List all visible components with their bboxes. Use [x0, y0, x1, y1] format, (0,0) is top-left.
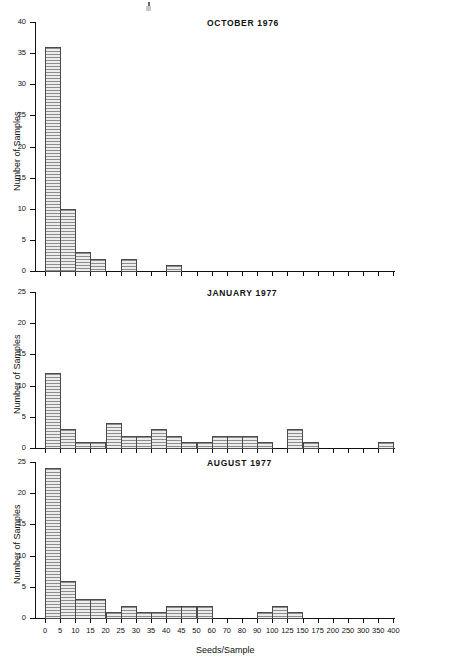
histogram-bar — [90, 442, 106, 449]
histogram-bar — [197, 606, 213, 619]
y-tick-label: 30 — [3, 79, 26, 88]
x-tick — [363, 272, 364, 276]
histogram-bar — [90, 599, 106, 619]
y-tick — [30, 22, 35, 23]
histogram-bar — [272, 606, 288, 619]
x-tick — [197, 449, 198, 453]
x-tick — [45, 272, 46, 276]
histogram-bar — [121, 606, 137, 619]
histogram-bar — [45, 373, 61, 449]
x-tick — [136, 619, 137, 623]
histogram-bar — [212, 436, 228, 449]
y-tick-label: 15 — [3, 519, 26, 528]
x-tick — [121, 619, 122, 623]
x-tick — [60, 272, 61, 276]
x-tick — [393, 449, 394, 453]
panel-title: OCTOBER 1976 — [207, 18, 279, 28]
x-axis-line — [35, 448, 395, 449]
x-tick-label: 5 — [50, 626, 70, 635]
x-tick — [378, 272, 379, 276]
x-tick-label: 90 — [247, 626, 267, 635]
y-tick-label: 20 — [3, 318, 26, 327]
y-tick-label: 10 — [3, 551, 26, 560]
x-tick — [318, 272, 319, 276]
histogram-bar — [166, 436, 182, 449]
x-tick — [166, 272, 167, 276]
y-tick — [30, 462, 35, 463]
y-tick — [30, 493, 35, 494]
histogram-bar — [287, 612, 303, 619]
histogram-bar — [257, 612, 273, 619]
x-tick — [272, 619, 273, 623]
x-tick — [227, 619, 228, 623]
x-tick — [227, 272, 228, 276]
x-tick — [151, 619, 152, 623]
y-tick — [30, 53, 35, 54]
x-tick — [333, 619, 334, 623]
x-tick — [242, 619, 243, 623]
y-tick — [30, 84, 35, 85]
y-tick-label: 40 — [3, 17, 26, 26]
x-tick — [75, 619, 76, 623]
histogram-bar — [166, 265, 182, 272]
x-axis-line — [35, 618, 395, 619]
x-tick — [90, 619, 91, 623]
x-tick — [363, 449, 364, 453]
x-tick — [151, 449, 152, 453]
x-tick-label: 45 — [171, 626, 191, 635]
y-tick-label: 0 — [3, 443, 26, 452]
x-tick — [106, 619, 107, 623]
x-tick-label: 80 — [232, 626, 252, 635]
y-tick-label: 20 — [3, 488, 26, 497]
x-tick — [181, 272, 182, 276]
x-tick — [151, 272, 152, 276]
y-tick-label: 25 — [3, 110, 26, 119]
histogram-bar — [45, 468, 61, 619]
x-tick — [363, 619, 364, 623]
histogram-bar — [151, 612, 167, 619]
histogram-bar — [90, 259, 106, 272]
x-tick — [75, 449, 76, 453]
histogram-bar — [181, 606, 197, 619]
y-tick — [30, 587, 35, 588]
x-tick — [318, 619, 319, 623]
x-tick — [257, 272, 258, 276]
scan-artifact-smudge — [146, 6, 151, 11]
y-tick-label: 25 — [3, 457, 26, 466]
x-tick — [393, 619, 394, 623]
x-axis-line — [35, 271, 395, 272]
x-tick — [212, 449, 213, 453]
y-tick — [30, 354, 35, 355]
x-tick-label: 20 — [96, 626, 116, 635]
x-tick-label: 50 — [187, 626, 207, 635]
x-tick-label: 10 — [65, 626, 85, 635]
x-tick-label: 250 — [338, 626, 358, 635]
y-tick-label: 20 — [3, 142, 26, 151]
x-tick — [136, 272, 137, 276]
x-tick — [212, 272, 213, 276]
x-tick-label: 400 — [383, 626, 403, 635]
x-tick — [257, 619, 258, 623]
y-tick — [30, 556, 35, 557]
y-tick-label: 25 — [3, 287, 26, 296]
histogram-bar — [181, 442, 197, 449]
y-tick — [30, 524, 35, 525]
x-tick-label: 30 — [126, 626, 146, 635]
x-tick-label: 150 — [293, 626, 313, 635]
chart-panel-1: OCTOBER 19760510152025303540Number of Sa… — [0, 0, 465, 664]
histogram-bar — [257, 442, 273, 449]
x-tick — [45, 449, 46, 453]
x-tick — [60, 619, 61, 623]
y-tick-label: 15 — [3, 349, 26, 358]
x-tick-label: 40 — [156, 626, 176, 635]
histogram-bar — [197, 442, 213, 449]
y-axis-line — [35, 22, 36, 272]
x-tick — [75, 272, 76, 276]
x-tick-label: 0 — [35, 626, 55, 635]
x-tick — [348, 619, 349, 623]
y-tick — [30, 323, 35, 324]
histogram-bar — [75, 252, 91, 272]
x-tick — [181, 619, 182, 623]
x-tick — [121, 272, 122, 276]
x-tick — [303, 272, 304, 276]
